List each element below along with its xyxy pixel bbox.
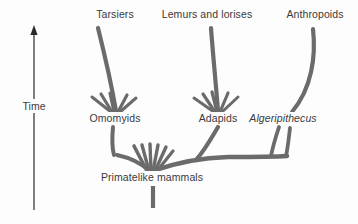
branch-algeripithecus-to-anthropoids xyxy=(292,29,314,112)
time-axis-label: Time xyxy=(20,99,49,113)
taxon-label-anthropoids: Anthropoids xyxy=(285,8,344,20)
anthropoids-lineage xyxy=(292,29,314,112)
branch-trunk-to-algeripithecus xyxy=(271,127,279,156)
up-arrow-icon xyxy=(30,25,37,35)
taxon-label-tarsiers: Tarsiers xyxy=(95,8,135,20)
base-to-right-trunk xyxy=(156,156,287,170)
taxon-label-lemurs-and-lorises: Lemurs and lorises xyxy=(161,8,254,20)
omomyids-stem-group xyxy=(112,127,114,155)
branch-trunk-to-anthropoid-line xyxy=(286,128,290,156)
branch-base-extinct-3 xyxy=(150,144,151,171)
time-axis xyxy=(30,25,37,210)
branch-omomyids-to-tarsiers xyxy=(98,28,116,111)
horizontal-trunk xyxy=(156,156,287,170)
taxon-label-primatelike-mammals: Primatelike mammals xyxy=(100,171,204,183)
taxon-label-omomyids: Omomyids xyxy=(89,112,142,124)
taxon-label-algeripithecus: Algeripithecus xyxy=(248,112,317,124)
taxon-label-adapids: Adapids xyxy=(198,112,239,124)
tarsiers-lineage xyxy=(98,28,116,111)
branch-omomyids-to-base xyxy=(112,127,114,155)
adapids-stem-group xyxy=(196,127,218,160)
branch-trunk-to-adapids xyxy=(196,127,218,160)
phylogenetic-tree-figure: Tarsiers Lemurs and lorises Anthropoids … xyxy=(0,0,358,224)
algeripithecus-stem-group xyxy=(271,127,290,156)
